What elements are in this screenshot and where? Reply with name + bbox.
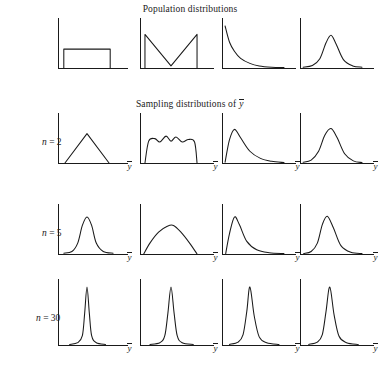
x-axis-label-ybar: y: [373, 161, 378, 171]
ybar-symbol: y: [127, 161, 132, 171]
x-axis-label-ybar: y: [213, 252, 218, 262]
density-curve: [64, 49, 110, 68]
density-curve: [150, 287, 193, 344]
x-axis-label-ybar: y: [127, 252, 132, 262]
distribution-panel-n2-col1: [56, 113, 132, 167]
x-axis-label-ybar: y: [373, 252, 378, 262]
distribution-panel-n5-col4: [298, 204, 378, 258]
density-curve: [229, 287, 279, 344]
x-axis-label-ybar: y: [213, 161, 218, 171]
distribution-panel-n2-col3: [220, 113, 300, 167]
density-curve: [304, 216, 362, 253]
distribution-panel-n30-col2: [138, 279, 218, 349]
density-curve: [309, 287, 359, 344]
density-curve: [145, 34, 197, 68]
x-axis-label-ybar: y: [127, 343, 132, 353]
density-curve: [64, 217, 113, 253]
distribution-panel-population-col4: [298, 18, 378, 72]
distribution-panel-n5-col2: [138, 204, 218, 258]
ybar-symbol: y: [127, 252, 132, 262]
x-axis-label-ybar: y: [373, 343, 378, 353]
clt-figure: Population distributions Sampling distri…: [0, 0, 380, 373]
x-axis-label-ybar: y: [213, 343, 218, 353]
distribution-panel-population-col1: [56, 18, 132, 72]
density-curve: [65, 134, 109, 163]
distribution-panel-n30-col1: [56, 279, 132, 349]
density-curve: [145, 136, 197, 163]
ybar-symbol: y: [239, 99, 244, 109]
ybar-symbol: y: [373, 161, 378, 171]
density-curve: [225, 26, 284, 68]
ybar-symbol: y: [373, 252, 378, 262]
distribution-panel-population-col3: [220, 18, 300, 72]
distribution-panel-n30-col4: [298, 279, 378, 349]
ybar-symbol: y: [213, 343, 218, 353]
ybar-symbol: y: [127, 343, 132, 353]
ybar-symbol: y: [213, 252, 218, 262]
distribution-panel-population-col2: [138, 18, 218, 72]
ybar-symbol: y: [373, 343, 378, 353]
distribution-panel-n5-col3: [220, 204, 300, 258]
density-curve: [144, 225, 197, 254]
density-curve: [303, 35, 362, 67]
x-axis-label-ybar: y: [127, 161, 132, 171]
density-curve: [70, 287, 106, 344]
density-curve: [225, 129, 284, 162]
sampling-title-text: Sampling distributions of: [136, 99, 239, 109]
distribution-panel-n30-col3: [220, 279, 300, 349]
density-curve: [226, 217, 284, 254]
distribution-panel-n2-col4: [298, 113, 378, 167]
sampling-distributions-title: Sampling distributions of y: [0, 99, 380, 109]
density-curve: [303, 129, 362, 163]
distribution-panel-n5-col1: [56, 204, 132, 258]
ybar-symbol: y: [213, 161, 218, 171]
population-distributions-title: Population distributions: [0, 4, 380, 14]
distribution-panel-n2-col2: [138, 113, 218, 167]
